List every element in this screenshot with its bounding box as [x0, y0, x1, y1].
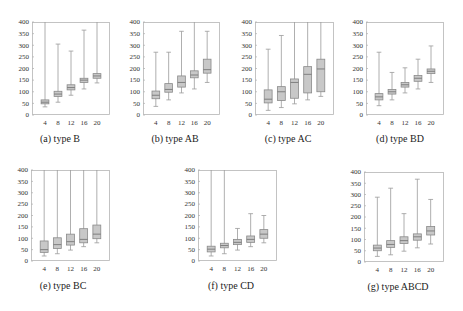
y-tick-label: 100 [351, 236, 362, 244]
caption-type-b: (a) type B [40, 133, 80, 144]
x-tick-label: 20 [260, 265, 268, 273]
y-tick-label: 50 [356, 100, 364, 108]
x-tick-label: 4 [154, 119, 158, 127]
box-12 [67, 170, 75, 250]
box-8 [387, 188, 395, 255]
subplot-type-ac: 05010015020025030035040048121620 [255, 22, 334, 115]
y-tick-label: 200 [19, 65, 30, 73]
x-tick-label: 8 [223, 265, 227, 273]
y-tick-label: 50 [133, 100, 141, 108]
box-20 [427, 199, 435, 244]
box-16 [80, 30, 88, 89]
x-tick-label: 12 [402, 119, 410, 127]
x-tick-label: 12 [401, 266, 409, 274]
y-tick-label: 50 [188, 246, 196, 254]
caption-type-cd: (f) type CD [208, 280, 254, 291]
x-tick-label: 8 [389, 266, 393, 274]
box-20 [427, 46, 435, 83]
box-12 [234, 228, 242, 250]
y-tick-label: 350 [185, 178, 196, 186]
x-tick-label: 20 [94, 119, 102, 127]
y-tick-label: 50 [21, 246, 29, 254]
subplot-type-b: 05010015020025030035040048121620 [32, 22, 110, 115]
box-16 [414, 59, 422, 89]
y-tick-label: 250 [18, 200, 29, 208]
y-tick-label: 0 [26, 111, 30, 119]
y-tick-label: 300 [242, 42, 253, 50]
y-tick-label: 150 [353, 76, 364, 84]
box-12 [67, 51, 75, 95]
y-tick-label: 50 [354, 247, 362, 255]
box-20 [93, 170, 101, 243]
y-tick-label: 250 [353, 53, 364, 61]
box-4 [375, 52, 383, 105]
y-tick-label: 250 [130, 53, 141, 61]
y-tick-label: 100 [18, 235, 29, 243]
y-tick-label: 250 [242, 53, 253, 61]
box-16 [304, 22, 312, 100]
caption-type-ac: (c) type AC [265, 133, 312, 144]
x-tick-label: 8 [56, 265, 60, 273]
box-4 [40, 170, 48, 256]
y-tick-label: 200 [351, 213, 362, 221]
y-tick-label: 0 [249, 111, 253, 119]
y-tick-label: 100 [130, 88, 141, 96]
box-16 [80, 170, 88, 247]
y-tick-label: 100 [19, 88, 30, 96]
y-tick-label: 400 [130, 18, 141, 26]
y-tick-label: 250 [185, 200, 196, 208]
plot-area: 05010015020025030035040048121620 [32, 22, 110, 115]
x-tick-label: 20 [428, 119, 436, 127]
x-tick-label: 8 [167, 119, 171, 127]
y-tick-label: 350 [19, 30, 30, 38]
box-8 [220, 170, 228, 254]
y-tick-label: 400 [185, 166, 196, 174]
y-tick-label: 250 [351, 202, 362, 210]
x-tick-label: 16 [247, 265, 255, 273]
box-20 [93, 22, 101, 83]
y-tick-label: 300 [353, 42, 364, 50]
box-4 [207, 170, 215, 256]
x-tick-label: 4 [376, 266, 380, 274]
y-tick-label: 200 [242, 65, 253, 73]
y-tick-label: 300 [19, 42, 30, 50]
box-4 [373, 197, 381, 256]
subplot-type-bd: 05010015020025030035040048121620 [366, 22, 444, 115]
x-tick-label: 12 [234, 265, 242, 273]
y-tick-label: 300 [130, 42, 141, 50]
x-tick-label: 12 [178, 119, 186, 127]
y-tick-label: 250 [19, 53, 30, 61]
x-tick-label: 20 [204, 119, 212, 127]
box-12 [291, 22, 299, 104]
box-12 [178, 31, 186, 93]
y-tick-label: 350 [130, 30, 141, 38]
y-tick-label: 300 [18, 189, 29, 197]
box-8 [277, 35, 285, 107]
box-20 [260, 216, 268, 243]
x-tick-label: 4 [266, 119, 270, 127]
y-tick-label: 400 [242, 18, 253, 26]
y-tick-label: 100 [185, 235, 196, 243]
y-tick-label: 200 [18, 212, 29, 220]
plot-area: 05010015020025030035040048121620 [366, 22, 444, 115]
y-tick-label: 350 [18, 178, 29, 186]
box-4 [264, 49, 272, 110]
y-tick-label: 0 [358, 258, 362, 266]
box-20 [317, 22, 325, 96]
x-tick-label: 4 [377, 119, 381, 127]
y-tick-label: 50 [22, 100, 30, 108]
y-tick-label: 300 [185, 189, 196, 197]
plot-area: 05010015020025030035040048121620 [143, 22, 220, 115]
x-tick-label: 16 [81, 119, 89, 127]
caption-type-bd: (d) type BD [376, 133, 424, 144]
x-tick-label: 4 [43, 119, 47, 127]
y-tick-label: 0 [360, 111, 364, 119]
x-tick-label: 20 [427, 266, 435, 274]
caption-type-bc: (e) type BC [40, 280, 87, 291]
box-12 [401, 68, 409, 93]
y-tick-label: 350 [353, 30, 364, 38]
box-8 [388, 72, 396, 99]
box-12 [400, 214, 408, 252]
caption-type-abcd: (g) type ABCD [367, 281, 428, 292]
y-tick-label: 200 [185, 212, 196, 220]
